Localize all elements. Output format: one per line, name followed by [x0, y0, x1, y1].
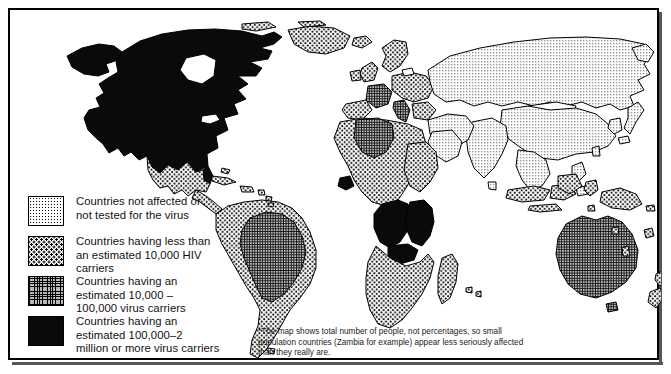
- legend-line: 100,000 virus carriers: [76, 302, 186, 316]
- region-new-zealand-north: [655, 270, 661, 286]
- region-new-zealand-south: [648, 288, 661, 308]
- region-australia: [556, 216, 638, 298]
- region-france: [366, 84, 392, 108]
- region-pacific-island-c: [612, 227, 619, 234]
- region-pacific-island-a: [644, 228, 654, 238]
- footnote-line: *The map shows total number of people, n…: [258, 327, 588, 338]
- region-central-europe: [392, 72, 434, 102]
- region-indonesia-a: [506, 186, 550, 202]
- legend-item-10000-100000: Countries having an estimated 10,000 – 1…: [20, 275, 235, 309]
- map-legend: Countries not affected or not tested for…: [20, 195, 235, 355]
- region-uganda-kenya-tanzania: [406, 200, 434, 246]
- footnote-line: than they really are.: [258, 348, 588, 359]
- region-ivory-coast: [338, 176, 354, 190]
- legend-line: estimated 10,000 –: [76, 289, 186, 303]
- region-trinidad: [268, 203, 274, 207]
- legend-line: Countries having an: [76, 315, 219, 329]
- legend-line: Countries having less than: [76, 235, 210, 249]
- region-papua-new-guinea: [600, 188, 642, 210]
- region-east-africa-none: [404, 142, 438, 192]
- legend-line: carriers: [76, 262, 210, 276]
- legend-line: estimated 100,000–2: [76, 329, 219, 343]
- legend-line: an estimated 10,000 HIV: [76, 249, 210, 263]
- region-arctic-island-a: [242, 22, 276, 31]
- legend-label-less-than-10000: Countries having less than an estimated …: [76, 235, 210, 276]
- legend-label-100000-plus: Countries having an estimated 100,000–2 …: [76, 315, 219, 356]
- footnote-line: population countries (Zambia for example…: [258, 338, 588, 349]
- legend-swatch-100000-plus: [28, 316, 64, 346]
- region-mauritius: [466, 287, 472, 293]
- region-pacific-island-b: [622, 246, 630, 256]
- region-pacific-island-d: [588, 205, 595, 211]
- region-ireland: [350, 70, 361, 81]
- legend-line: Countries having an: [76, 275, 186, 289]
- region-iceland: [352, 36, 372, 48]
- region-sri-lanka: [488, 182, 496, 190]
- region-balkans: [412, 102, 436, 120]
- region-tasmania: [606, 302, 618, 312]
- region-reunion: [476, 291, 481, 297]
- region-soviet-union: [428, 37, 652, 110]
- legend-line: Countries not affected or: [76, 195, 201, 209]
- region-iberia: [342, 100, 372, 120]
- legend-item-less-than-10000: Countries having less than an estimated …: [20, 235, 235, 269]
- region-alaska: [67, 44, 122, 76]
- region-antilles-a: [258, 190, 265, 195]
- region-java: [528, 204, 562, 212]
- region-madagascar: [438, 254, 458, 304]
- region-scandinavia: [382, 40, 408, 72]
- region-taiwan: [592, 146, 600, 156]
- legend-line: not tested for the virus: [76, 209, 201, 223]
- legend-item-not-affected: Countries not affected or not tested for…: [20, 195, 235, 229]
- region-solomon-islands: [646, 205, 655, 211]
- legend-line: million or more virus carriers: [76, 342, 219, 356]
- region-britain: [360, 62, 378, 82]
- frame-shadow-bottom: [12, 362, 663, 365]
- region-greenland: [288, 26, 350, 54]
- legend-label-not-affected: Countries not affected or not tested for…: [76, 195, 201, 222]
- map-footnote: *The map shows total number of people, n…: [258, 327, 588, 359]
- region-arctic-island-b: [298, 21, 326, 27]
- hiv-world-map-figure: Countries not affected or not tested for…: [0, 0, 671, 374]
- legend-swatch-not-affected: [28, 196, 64, 226]
- legend-swatch-10000-100000: [28, 276, 64, 306]
- legend-item-100000-plus: Countries having an estimated 100,000–2 …: [20, 315, 235, 349]
- legend-swatch-less-than-10000: [28, 236, 64, 266]
- region-baltic: [402, 68, 414, 76]
- map-frame: Countries not affected or not tested for…: [8, 8, 659, 360]
- legend-label-10000-100000: Countries having an estimated 10,000 – 1…: [76, 275, 186, 316]
- region-bahamas: [221, 168, 230, 174]
- region-italy: [393, 100, 410, 122]
- region-hispaniola: [240, 186, 254, 192]
- region-cuba: [212, 176, 236, 185]
- region-japan-south: [618, 136, 630, 144]
